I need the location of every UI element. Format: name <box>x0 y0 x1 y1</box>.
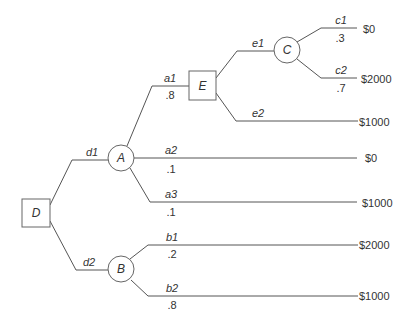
branch-d1-label: d1 <box>86 146 98 158</box>
branch-b1-line <box>130 245 358 259</box>
branch-a1-label: a1 <box>164 72 176 84</box>
branch-c2-line <box>297 59 357 78</box>
node-E-label: E <box>198 79 207 93</box>
branch-e2-line <box>216 93 358 121</box>
node-D-label: D <box>32 206 41 220</box>
payoff-a2: $0 <box>365 152 377 164</box>
branch-d1-line <box>50 160 108 205</box>
payoff-e2: $1000 <box>359 116 390 128</box>
payoff-a3: $1000 <box>362 197 393 209</box>
edges <box>50 28 358 296</box>
node-E: E <box>189 71 216 100</box>
branch-c2-label: c2 <box>335 64 347 76</box>
payoff-c1: $0 <box>363 23 375 35</box>
branch-e1-label: e1 <box>252 37 264 49</box>
node-A: A <box>108 145 134 171</box>
branch-d2-label: d2 <box>83 256 95 268</box>
payoffs: $0 $2000 $1000 $0 $1000 $2000 $1000 <box>359 23 393 302</box>
branch-a3-label: a3 <box>165 188 178 200</box>
prob-b1: .2 <box>167 248 176 260</box>
decision-tree-diagram: D A B E C d1 d2 a1 a2 a3 e1 e2 c1 c2 b1 … <box>0 0 415 328</box>
prob-c2: .7 <box>336 82 345 94</box>
payoff-c2: $2000 <box>361 73 392 85</box>
prob-a2: .1 <box>166 163 175 175</box>
node-D: D <box>22 199 50 227</box>
branch-e2-label: e2 <box>252 107 264 119</box>
prob-c1: .3 <box>335 32 344 44</box>
node-B-label: B <box>117 262 125 276</box>
branch-e1-line <box>216 51 274 78</box>
payoff-b1: $2000 <box>359 239 390 251</box>
branch-c1-label: c1 <box>335 14 347 26</box>
branch-b2-label: b2 <box>166 282 178 294</box>
branch-c1-line <box>297 28 357 42</box>
prob-a1: .8 <box>165 89 174 101</box>
node-C-label: C <box>283 43 292 57</box>
node-B: B <box>108 256 134 282</box>
branch-a1-line <box>127 86 189 146</box>
branch-b1-label: b1 <box>166 231 178 243</box>
node-A-label: A <box>116 151 125 165</box>
node-C: C <box>274 37 300 63</box>
branch-d2-line <box>50 221 108 270</box>
prob-a3: .1 <box>166 206 175 218</box>
payoff-b2: $1000 <box>359 290 390 302</box>
prob-b2: .8 <box>167 299 176 311</box>
branch-a2-label: a2 <box>165 144 177 156</box>
